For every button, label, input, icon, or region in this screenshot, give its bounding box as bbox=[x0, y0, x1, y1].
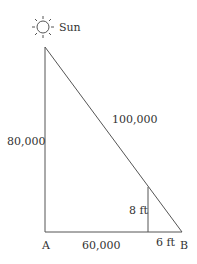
diagram: Sun 80,000 100,000 60,000 8 ft 6 ft A B bbox=[0, 0, 197, 264]
hypotenuse-label: 100,000 bbox=[112, 113, 158, 126]
vertical-side-label: 80,000 bbox=[7, 135, 46, 148]
base-label: 60,000 bbox=[82, 239, 121, 252]
point-b-label: B bbox=[180, 239, 188, 252]
sun-label: Sun bbox=[59, 21, 81, 34]
small-base-label: 6 ft bbox=[156, 236, 176, 249]
small-height-label: 8 ft bbox=[129, 204, 149, 217]
point-a-label: A bbox=[41, 239, 51, 252]
hypotenuse bbox=[45, 47, 182, 232]
sun-icon bbox=[32, 16, 54, 38]
